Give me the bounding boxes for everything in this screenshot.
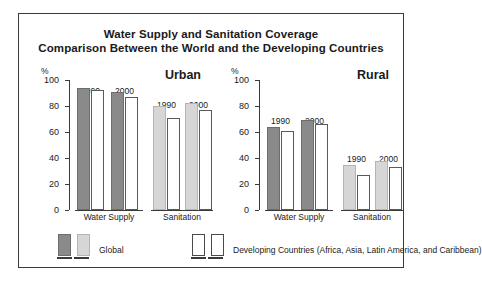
bar-urban-water-1990-global [77,88,90,210]
bar-pair-urban-sanitation-2000: 2000 [185,80,212,210]
bar-rural-water-2000-global [301,120,314,210]
bar-rural-sanitation-2000-developing [389,167,402,210]
y-tick-label-80: 80 [239,101,249,111]
bar-urban-sanitation-2000-global [185,103,198,210]
bar-rural-water-2000-developing [315,124,328,210]
y-tick-80: 80 [255,106,259,107]
group-baseline [151,210,213,211]
panel-urban: % Urban 100 80 60 40 20 0 [25,64,215,224]
legend-swatch-global-dark [57,234,72,259]
y-tick-40: 40 [65,158,69,159]
chart-legend: Global Developing Countries (Africa, Asi… [19,232,403,266]
y-tick-label-100: 100 [44,75,59,85]
legend-swatch-developing-2 [206,234,224,259]
chart-frame: Water Supply and Sanitation Coverage Com… [18,13,404,268]
y-tick-label-0: 0 [244,205,249,215]
legend-swatch-base [57,257,72,259]
y-tick-60: 60 [65,132,69,133]
legend-item-developing: Developing Countries (Africa, Asia, Lati… [191,234,482,259]
legend-swatch-fill [192,234,205,256]
bar-group-urban-sanitation: 1990 2000 Sanitation [151,80,213,210]
y-tick-100: 100 [65,80,69,81]
legend-swatch-global-light [72,234,90,259]
bar-urban-sanitation-1990-developing [167,118,180,210]
legend-label-developing: Developing Countries (Africa, Asia, Lati… [233,245,482,255]
y-tick-60: 60 [255,132,259,133]
bar-group-rural-water-supply: 1990 2000 Water Supply [265,80,333,210]
x-axis-label-sanitation: Sanitation [353,212,391,222]
y-tick-label-40: 40 [239,153,249,163]
plot-area-rural: 100 80 60 40 20 0 1990 [259,80,395,210]
bar-urban-sanitation-2000-developing [199,110,212,210]
y-tick-100: 100 [255,80,259,81]
bar-rural-sanitation-1990-global [343,165,356,211]
y-tick-0: 0 [255,210,259,211]
bar-pair-rural-water-1990: 1990 [267,80,294,210]
chart-title: Water Supply and Sanitation Coverage Com… [19,27,403,55]
y-axis-line [259,80,260,210]
bar-pair-urban-water-1990: 1990 [77,80,104,210]
bar-urban-water-1990-developing [91,90,104,210]
y-tick-label-100: 100 [234,75,249,85]
bar-pair-year-label: 1990 [271,116,290,126]
bar-pair-rural-sanitation-1990: 1990 [343,80,370,210]
bar-urban-water-2000-developing [125,97,138,210]
y-tick-20: 20 [65,184,69,185]
chart-title-line-2: Comparison Between the World and the Dev… [19,41,403,55]
bar-urban-sanitation-1990-global [153,106,166,210]
bar-group-urban-water-supply: 1990 2000 Water Supply [75,80,143,210]
legend-swatch-developing-1 [191,234,206,259]
bar-group-rural-sanitation: 1990 2000 Sanitation [341,80,403,210]
y-tick-0: 0 [65,210,69,211]
y-tick-label-60: 60 [239,127,249,137]
legend-swatch-base [74,257,89,259]
y-tick-label-60: 60 [49,127,59,137]
y-tick-40: 40 [255,158,259,159]
y-tick-20: 20 [255,184,259,185]
chart-title-line-1: Water Supply and Sanitation Coverage [19,27,403,41]
legend-swatch-base [191,257,206,259]
legend-swatch-base [208,257,223,259]
bar-rural-sanitation-1990-developing [357,175,370,210]
y-tick-label-0: 0 [54,205,59,215]
y-tick-label-20: 20 [49,179,59,189]
bar-pair-year-label: 1990 [347,154,366,164]
x-axis-label-water-supply: Water Supply [84,212,135,222]
y-axis-line [69,80,70,210]
group-baseline [341,210,403,211]
group-baseline [265,210,333,211]
panel-rural: % Rural 100 80 60 40 20 0 [215,64,403,224]
bar-pair-rural-sanitation-2000: 2000 [375,80,402,210]
bar-rural-water-1990-developing [281,131,294,210]
legend-swatch-fill [77,234,90,256]
y-tick-label-80: 80 [49,101,59,111]
plot-area-urban: 100 80 60 40 20 0 1990 [69,80,205,210]
y-tick-label-20: 20 [239,179,249,189]
x-axis-label-sanitation: Sanitation [163,212,201,222]
bar-pair-urban-water-2000: 2000 [111,80,138,210]
legend-swatch-fill [58,234,71,256]
bar-pair-rural-water-2000: 2000 [301,80,328,210]
legend-swatch-fill [211,234,224,256]
bar-urban-water-2000-global [111,92,124,210]
bar-pair-urban-sanitation-1990: 1990 [153,80,180,210]
legend-item-global: Global [57,234,124,259]
bar-rural-sanitation-2000-global [375,161,388,210]
bar-rural-water-1990-global [267,127,280,210]
x-axis-label-water-supply: Water Supply [274,212,325,222]
legend-label-global: Global [99,245,124,255]
y-tick-label-40: 40 [49,153,59,163]
y-tick-80: 80 [65,106,69,107]
group-baseline [75,210,143,211]
